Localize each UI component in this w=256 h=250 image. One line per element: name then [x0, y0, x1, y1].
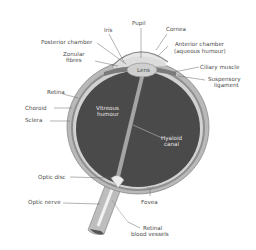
label-anterior-chamber-1: Anterior chamber [175, 41, 225, 47]
label-iris: Iris [104, 27, 113, 33]
label-pupil: Pupil [132, 20, 146, 27]
eye-anatomy-diagram: Pupil Iris Cornea Posterior chamber Zonu… [0, 0, 256, 250]
label-fovea: Fovea [141, 199, 158, 205]
label-sclera: Sclera [25, 117, 42, 123]
label-retinal-blood-vessels-2: blood vessels [131, 231, 169, 237]
label-suspensory-ligament-2: ligament [214, 82, 240, 89]
label-zonular-fibres-2: fibres [66, 57, 82, 63]
label-vitreous-humour-2: humour [97, 111, 120, 117]
label-optic-nerve: Optic nerve [28, 199, 61, 206]
label-ciliary-muscle: Ciliary muscle [200, 64, 240, 71]
label-anterior-chamber-2: (aqueous humour) [174, 48, 226, 55]
label-cornea: Cornea [166, 26, 186, 32]
label-hyaloid-canal-2: canal [164, 141, 179, 147]
label-retina: Retina [47, 89, 65, 95]
label-lens: Lens [137, 67, 150, 73]
label-optic-disc: Optic disc [38, 174, 66, 181]
label-choroid: Choroid [25, 105, 47, 111]
label-posterior-chamber: Posterior chamber [41, 39, 93, 45]
